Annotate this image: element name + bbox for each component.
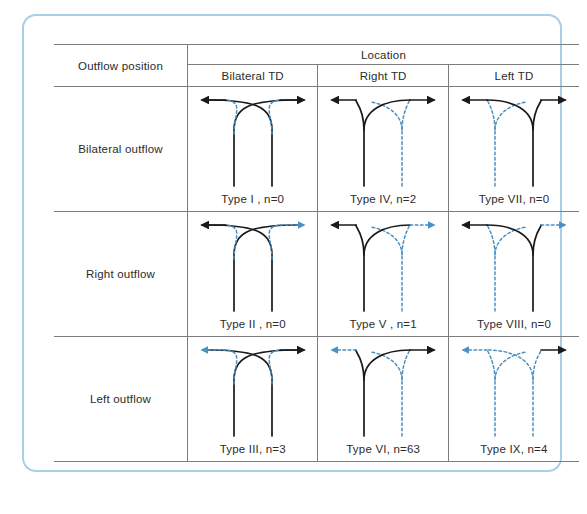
column-header-left-td: Left TD — [448, 65, 579, 87]
figure-frame: Outflow position Location Bilateral TD R… — [22, 14, 562, 472]
flow-diagram — [455, 340, 573, 438]
diagram-cell: Type VIII, n=0 — [448, 212, 579, 337]
flow-diagram — [455, 90, 573, 188]
group-header-location: Location — [188, 45, 580, 65]
diagram-cell: Type VI, n=63 — [318, 337, 448, 462]
flow-diagram — [455, 215, 573, 313]
flow-diagram — [194, 215, 312, 313]
type-label: Type II , n=0 — [188, 318, 317, 330]
flow-diagram — [194, 340, 312, 438]
diagram-cell: Type II , n=0 — [188, 212, 318, 337]
flow-diagram — [324, 90, 442, 188]
type-label: Type V , n=1 — [318, 318, 447, 330]
type-label: Type VIII, n=0 — [449, 318, 579, 330]
type-label: Type VII, n=0 — [449, 193, 579, 205]
diagram-cell: Type VII, n=0 — [448, 87, 579, 212]
column-header-bilateral-td: Bilateral TD — [188, 65, 318, 87]
row-header-left-outflow: Left outflow — [54, 337, 188, 462]
flow-diagram — [324, 340, 442, 438]
row-header-bilateral-outflow: Bilateral outflow — [54, 87, 188, 212]
type-label: Type IX, n=4 — [449, 443, 579, 455]
diagram-cell: Type III, n=3 — [188, 337, 318, 462]
corner-header: Outflow position — [54, 45, 188, 87]
diagram-cell: Type I , n=0 — [188, 87, 318, 212]
table-row: Left outflow Type III, n=3 Type VI, n=63 — [54, 337, 579, 462]
type-label: Type IV, n=2 — [318, 193, 447, 205]
diagram-cell: Type V , n=1 — [318, 212, 448, 337]
column-header-right-td: Right TD — [318, 65, 448, 87]
diagram-cell: Type IX, n=4 — [448, 337, 579, 462]
flow-diagram — [324, 215, 442, 313]
flow-diagram — [194, 90, 312, 188]
type-label: Type I , n=0 — [188, 193, 317, 205]
header-row-group: Outflow position Location — [54, 45, 579, 65]
type-label: Type III, n=3 — [188, 443, 317, 455]
type-label: Type VI, n=63 — [318, 443, 447, 455]
table-row: Right outflow Type II , n=0 Type V , n=1 — [54, 212, 579, 337]
table-row: Bilateral outflow Type I , n=0 Type IV, … — [54, 87, 579, 212]
row-header-right-outflow: Right outflow — [54, 212, 188, 337]
classification-table: Outflow position Location Bilateral TD R… — [54, 44, 579, 462]
diagram-cell: Type IV, n=2 — [318, 87, 448, 212]
